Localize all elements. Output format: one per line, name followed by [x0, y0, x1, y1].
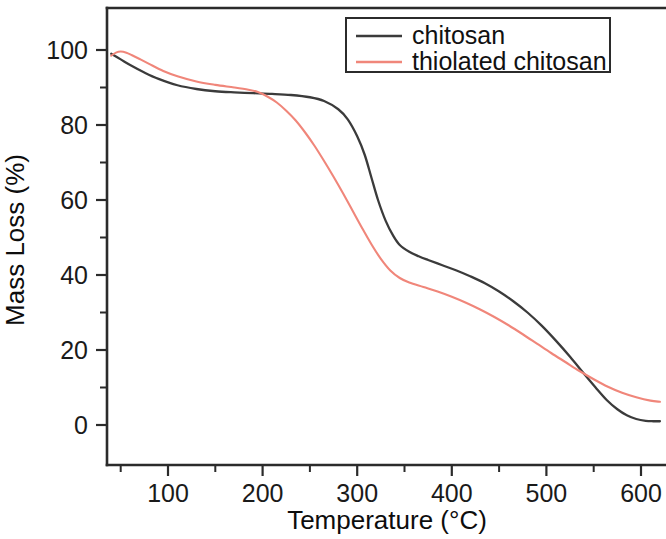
x-axis-tick-labels: 100200300400500600: [147, 479, 662, 507]
y-tick-label: 40: [60, 261, 88, 289]
y-tick-label: 100: [46, 36, 88, 64]
tga-chart-figure: 100200300400500600 020406080100 chitosan…: [0, 0, 666, 539]
y-tick-label: 60: [60, 186, 88, 214]
x-tick-label: 200: [242, 479, 284, 507]
legend-label-chitosan: chitosan: [412, 21, 505, 49]
y-axis-tick-labels: 020406080100: [46, 36, 88, 439]
series-line-thiolated-chitosan: [111, 52, 660, 402]
y-tick-label: 0: [74, 411, 88, 439]
x-axis-ticks: [121, 465, 641, 476]
axis-frame: [107, 8, 666, 465]
data-series-group: [111, 52, 660, 422]
x-tick-label: 300: [336, 479, 378, 507]
chart-canvas: 100200300400500600 020406080100 chitosan…: [0, 0, 666, 539]
y-axis-title: Mass Loss (%): [0, 154, 30, 326]
x-tick-label: 500: [526, 479, 568, 507]
legend-label-thiolated-chitosan: thiolated chitosan: [412, 47, 607, 75]
x-tick-label: 100: [147, 479, 189, 507]
y-axis-ticks: [96, 50, 107, 425]
x-axis-title: Temperature (°C): [287, 505, 487, 535]
chart-legend: chitosanthiolated chitosan: [346, 18, 610, 75]
y-tick-label: 80: [60, 111, 88, 139]
x-tick-label: 400: [431, 479, 473, 507]
x-tick-label: 600: [620, 479, 662, 507]
series-line-chitosan: [111, 54, 660, 422]
y-tick-label: 20: [60, 336, 88, 364]
